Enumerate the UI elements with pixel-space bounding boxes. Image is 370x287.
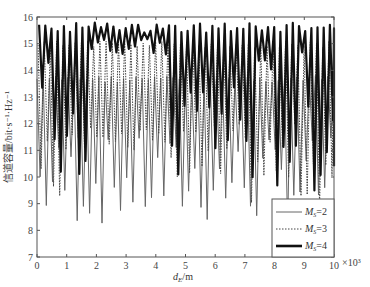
- x-tick-label: 3: [124, 260, 129, 271]
- y-axis-label: 信道容量/bit·s⁻¹·Hz⁻¹: [2, 91, 14, 183]
- x-tick-label: 5: [183, 260, 188, 271]
- y-tick-label: 13: [23, 92, 33, 103]
- series-layer: [37, 23, 334, 226]
- y-tick-label: 12: [23, 118, 33, 129]
- y-tick-label: 10: [23, 172, 33, 183]
- x-multiplier: ×10³: [342, 257, 361, 268]
- legend-label-ms4: MS=4: [304, 240, 327, 252]
- x-tick-label: 6: [213, 260, 218, 271]
- y-tick-label: 8: [28, 225, 33, 236]
- y-tick-label: 16: [23, 12, 33, 23]
- x-tick-label: 7: [242, 260, 247, 271]
- y-tick-label: 9: [28, 198, 33, 209]
- x-axis-label: dE/m: [173, 271, 193, 284]
- capacity-chart: 78910111213141516 012345678910 dE/m ×10³…: [0, 0, 370, 287]
- x-tick-label: 0: [35, 260, 40, 271]
- x-tick-label: 9: [302, 260, 307, 271]
- legend-label-ms2: MS=2: [304, 206, 327, 218]
- y-tick-label: 14: [23, 65, 33, 76]
- y-tick-label: 15: [23, 38, 33, 49]
- x-tick-label: 4: [153, 260, 158, 271]
- x-tick-label: 8: [272, 260, 277, 271]
- x-tick-label: 10: [329, 260, 339, 271]
- legend-label-ms3: MS=3: [304, 223, 327, 235]
- x-tick-label: 2: [94, 260, 99, 271]
- legend: MS=2 MS=3 MS=4: [272, 199, 334, 257]
- y-tick-label: 11: [23, 145, 33, 156]
- x-tick-label: 1: [64, 260, 69, 271]
- y-tick-label: 7: [28, 252, 33, 263]
